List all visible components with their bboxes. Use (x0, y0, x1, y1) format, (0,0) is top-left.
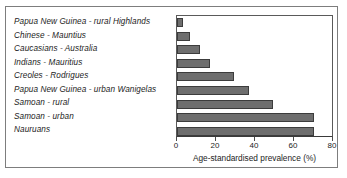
plot-area (176, 15, 333, 137)
category-label: Creoles - Rodrigues (14, 69, 174, 83)
x-axis-title: Age-standardised prevalence (%) (176, 153, 333, 163)
x-axis-tick-labels: 020406080 (176, 141, 333, 153)
bar (177, 72, 234, 81)
tick-label: 20 (211, 141, 220, 150)
tick-label: 60 (289, 141, 298, 150)
bar (177, 59, 210, 68)
bar (177, 18, 183, 27)
bar-series (177, 16, 332, 136)
bar (177, 32, 190, 41)
category-label: Caucasians - Australia (14, 42, 174, 56)
chart-figure: Papua New Guinea - rural Highlands Chine… (5, 6, 338, 168)
tick-label: 80 (328, 141, 337, 150)
category-axis-labels: Papua New Guinea - rural Highlands Chine… (14, 15, 174, 137)
category-label: Papua New Guinea - rural Highlands (14, 15, 174, 29)
bar-row (177, 57, 332, 71)
tick-label: 40 (250, 141, 259, 150)
tick-label: 0 (174, 141, 178, 150)
bar (177, 127, 314, 136)
bar (177, 113, 314, 122)
bar-row (177, 97, 332, 111)
category-label: Samoan - rural (14, 96, 174, 110)
category-label: Nauruans (14, 123, 174, 137)
bar-row (177, 30, 332, 44)
bar-row (177, 16, 332, 30)
bar (177, 45, 200, 54)
bar (177, 86, 249, 95)
bar-row (177, 124, 332, 138)
category-label: Indians - Mauritius (14, 56, 174, 70)
category-label: Chinese - Mauntius (14, 29, 174, 43)
bar-row (177, 111, 332, 125)
bar-row (177, 84, 332, 98)
category-label: Papua New Guinea - urban Wanigelas (14, 83, 174, 97)
bar-row (177, 43, 332, 57)
bar (177, 100, 273, 109)
bar-row (177, 70, 332, 84)
category-label: Samoan - urban (14, 110, 174, 124)
